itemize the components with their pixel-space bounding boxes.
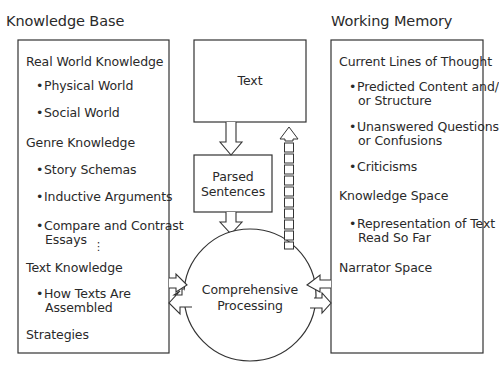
text-box-label: Text — [194, 74, 306, 88]
feedback-arrow-processing-to-text — [280, 127, 298, 249]
parsed-sentences-line1: Parsed — [194, 170, 272, 184]
kb-genre-knowledge: Genre Knowledge — [26, 136, 135, 150]
kb-ellipsis: ⋮ — [93, 240, 104, 254]
processing-line1: Comprehensive — [184, 283, 316, 297]
kb-story-schemas: Story Schemas — [45, 163, 136, 177]
wm-criticisms: Criticisms — [358, 160, 417, 174]
kb-how-texts-line1: How Texts Are — [45, 287, 131, 301]
kb-how-texts-line2: Assembled — [45, 301, 113, 315]
parsed-sentences-line2: Sentences — [194, 185, 272, 199]
wm-representation-line1: Representation of Text — [358, 217, 495, 231]
kb-text-knowledge: Text Knowledge — [26, 261, 123, 275]
processing-line2: Processing — [184, 299, 316, 313]
kb-physical-world: Physical World — [45, 79, 133, 93]
kb-compare-contrast-line2: Essays — [45, 233, 87, 247]
wm-current-lines: Current Lines of Thought — [339, 55, 492, 69]
wm-narrator-space: Narrator Space — [339, 261, 432, 275]
kb-compare-contrast-line1: Compare and Contrast — [45, 219, 184, 233]
working-memory-title: Working Memory — [331, 14, 452, 28]
knowledge-base-title: Knowledge Base — [6, 14, 124, 28]
wm-unanswered-line2: or Confusions — [358, 134, 442, 148]
wm-knowledge-space: Knowledge Space — [339, 189, 448, 203]
kb-real-world-knowledge: Real World Knowledge — [26, 55, 163, 69]
kb-strategies: Strategies — [26, 328, 89, 342]
arrow-text-to-parsed — [220, 122, 242, 155]
wm-predicted-line2: or Structure — [358, 94, 432, 108]
wm-predicted-line1: Predicted Content and/ — [358, 80, 499, 94]
wm-unanswered-line1: Unanswered Questions — [358, 120, 499, 134]
kb-social-world: Social World — [45, 106, 120, 120]
wm-representation-line2: Read So Far — [358, 231, 431, 245]
kb-inductive-arguments: Inductive Arguments — [45, 190, 172, 204]
